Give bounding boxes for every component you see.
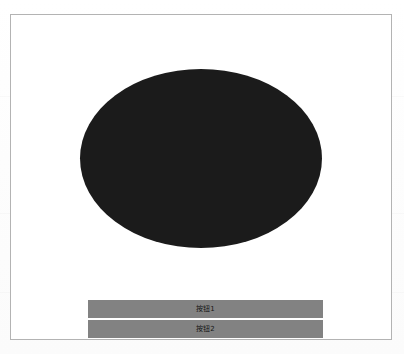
button-1[interactable]: 按钮1 bbox=[88, 300, 323, 318]
application-window-frame: 按钮1 按钮2 bbox=[10, 14, 392, 340]
ellipse-shape bbox=[80, 69, 322, 248]
canvas-client-area: 按钮1 按钮2 bbox=[11, 15, 391, 339]
button-2[interactable]: 按钮2 bbox=[88, 320, 323, 338]
button-stack: 按钮1 按钮2 bbox=[88, 300, 323, 338]
